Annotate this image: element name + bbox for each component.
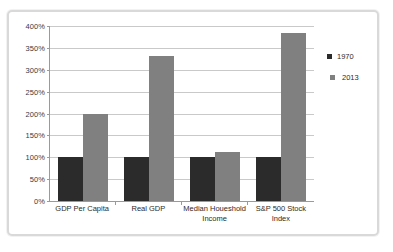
legend-label-1970: 1970: [337, 52, 354, 61]
bar-1970[interactable]: [190, 157, 215, 201]
y-axis-tick-label: 350%: [25, 43, 45, 52]
bar-1970[interactable]: [58, 157, 83, 201]
y-axis-tick-label: 0%: [34, 197, 45, 206]
legend-item-2013: 2013: [327, 73, 377, 82]
bar-group: [182, 26, 248, 201]
legend-item-1970: 1970: [327, 52, 377, 61]
y-axis-tick-label: 200%: [25, 109, 45, 118]
bar-2013[interactable]: [281, 33, 306, 201]
bar-group: [50, 26, 116, 201]
y-axis-tick-label: 150%: [25, 131, 45, 140]
y-axis-tick-mark: [47, 201, 50, 202]
y-axis-tick-label: 300%: [25, 65, 45, 74]
bar-group: [116, 26, 182, 201]
chart-frame: 0%50%100%150%200%250%300%350%400% GDP Pe…: [7, 10, 379, 236]
bar-2013[interactable]: [83, 114, 108, 202]
x-axis-category-labels: GDP Per CapitaReal GDPMedian Houeshold I…: [49, 204, 314, 224]
x-axis-category-label: GDP Per Capita: [49, 204, 115, 224]
y-axis-tick-label: 250%: [25, 87, 45, 96]
x-axis-category-label: Real GDP: [115, 204, 181, 224]
x-axis-category-label: S&P 500 Stock Index: [248, 204, 314, 224]
y-axis-tick-label: 400%: [25, 22, 45, 31]
y-axis-tick-label: 50%: [30, 175, 45, 184]
y-axis-tick-label: 100%: [25, 153, 45, 162]
legend-swatch-icon-2013: [330, 75, 335, 80]
bar-1970[interactable]: [256, 157, 281, 201]
legend-swatch-icon-1970: [327, 54, 332, 59]
bar-groups: [50, 26, 314, 201]
legend-label-2013: 2013: [342, 73, 359, 82]
bar-group: [248, 26, 314, 201]
bar-2013[interactable]: [149, 56, 174, 201]
bar-1970[interactable]: [124, 157, 149, 201]
plot-area: 0%50%100%150%200%250%300%350%400%: [49, 26, 314, 202]
chart-legend: 1970 2013: [327, 52, 377, 94]
bar-2013[interactable]: [215, 152, 240, 201]
x-axis-category-label: Median Houeshold Income: [182, 204, 248, 224]
